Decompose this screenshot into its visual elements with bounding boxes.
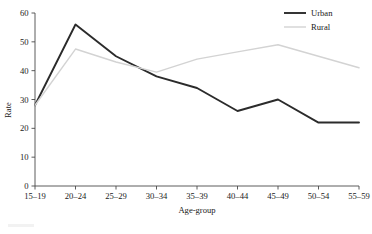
y-axis-title: Rate: [3, 102, 13, 118]
data-series-group: [35, 25, 359, 123]
y-tick-label: 30: [20, 95, 29, 105]
scan-artifact: [8, 224, 34, 227]
x-tick-label: 45–49: [267, 191, 288, 201]
series-line-rural: [35, 45, 359, 106]
chart-legend: UrbanRural: [284, 8, 333, 32]
y-axis-ticks: [32, 13, 36, 186]
legend-label-urban: Urban: [311, 8, 333, 18]
x-tick-label: 15–19: [24, 191, 45, 201]
y-tick-label: 0: [24, 181, 28, 191]
x-tick-label: 20–24: [65, 191, 87, 201]
chart-container: 0102030405060 15–1920–2425–2930–3435–394…: [0, 0, 372, 234]
x-tick-label: 50–54: [308, 191, 330, 201]
y-tick-label: 10: [20, 152, 29, 162]
x-tick-label: 55–59: [348, 191, 369, 201]
x-axis-title: Age-group: [178, 205, 215, 215]
axis-lines: [35, 13, 359, 186]
x-axis-tick-labels: 15–1920–2425–2930–3435–3940–4445–4950–54…: [24, 191, 369, 201]
x-tick-label: 30–34: [146, 191, 168, 201]
legend-label-rural: Rural: [311, 22, 331, 32]
y-tick-label: 50: [20, 37, 29, 47]
x-axis-ticks: [35, 186, 359, 190]
y-axis-tick-labels: 0102030405060: [20, 8, 29, 191]
line-chart: 0102030405060 15–1920–2425–2930–3435–394…: [0, 0, 372, 234]
series-line-urban: [35, 25, 359, 123]
y-tick-label: 40: [20, 66, 29, 76]
x-tick-label: 40–44: [227, 191, 249, 201]
x-tick-label: 25–29: [105, 191, 126, 201]
y-tick-label: 60: [20, 8, 29, 18]
y-tick-label: 20: [20, 123, 29, 133]
x-tick-label: 35–39: [186, 191, 207, 201]
